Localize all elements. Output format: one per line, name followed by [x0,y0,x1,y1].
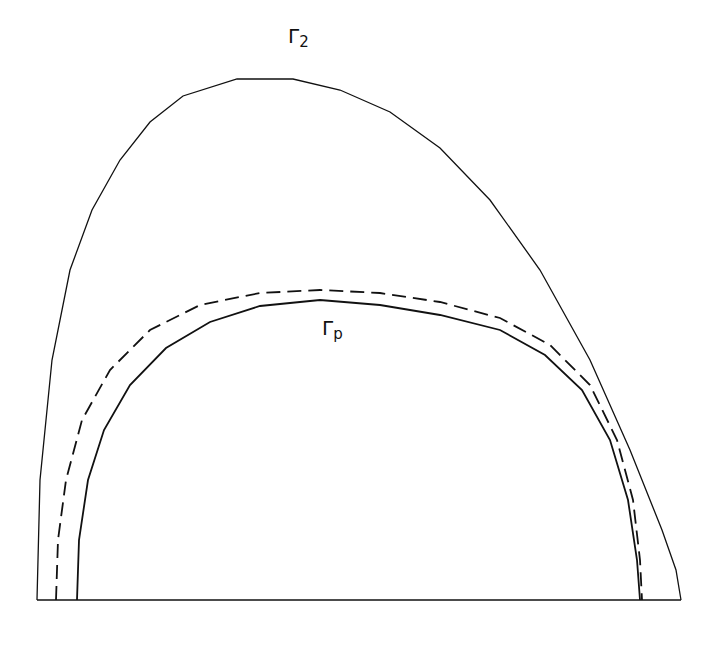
label-gamma-p: Γp [322,318,343,342]
gamma-2-subscript: 2 [299,33,309,51]
diagram-canvas: Γ2 Γp [0,0,718,645]
gamma-2-base: Γ [288,24,299,48]
label-gamma-2: Γ2 [288,26,309,50]
inner-curve-gamma-p [77,300,640,600]
gamma-p-subscript: p [333,325,343,343]
outer-curve-gamma-2 [37,79,681,600]
dashed-curve [56,290,642,600]
diagram-svg [0,0,718,645]
gamma-p-base: Γ [322,316,333,340]
